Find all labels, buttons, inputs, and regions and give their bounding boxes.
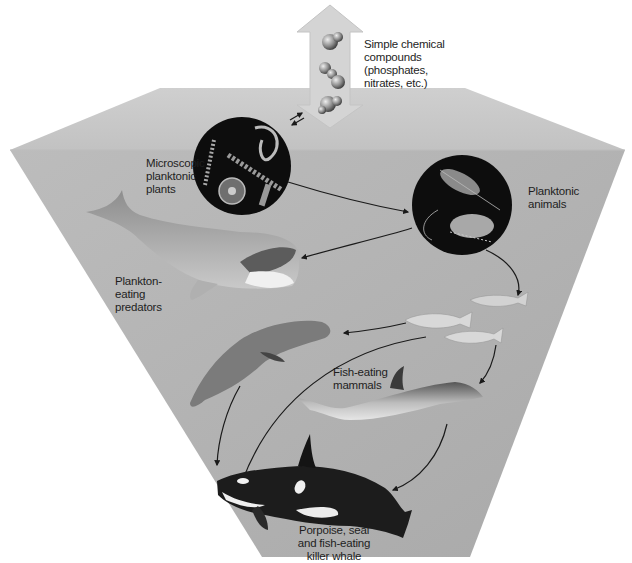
- fish-eating-mammals-label-line-1: Fish-eating: [333, 366, 388, 379]
- nutrients-label: Simple chemical compounds (phosphates, n…: [364, 38, 445, 90]
- nutrient-exchange-arrow: [297, 5, 363, 128]
- phytoplankton-label-line-1: Microscopic: [146, 157, 205, 170]
- top-predator-label-line-2: and fish-eating: [284, 537, 384, 550]
- baleen-whale-label-line-1: Plankton-: [115, 275, 162, 288]
- nutrients-label-line-4: nitrates, etc.): [364, 77, 445, 90]
- baleen-whale-label-line-2: eating: [115, 288, 162, 301]
- zooplankton-circle: [412, 155, 512, 255]
- phytoplankton-label: Microscopic planktonic plants: [146, 157, 205, 196]
- baleen-whale-label: Plankton- eating predators: [115, 275, 162, 314]
- baleen-whale-label-line-3: predators: [115, 301, 162, 314]
- phytoplankton-circle: [193, 117, 291, 215]
- nutrients-label-line-3: (phosphates,: [364, 64, 445, 77]
- nutrients-label-line-1: Simple chemical: [364, 38, 445, 51]
- top-predator-label-line-1: Porpoise, seal: [284, 524, 384, 537]
- fish-eating-mammals-label-line-2: mammals: [333, 379, 388, 392]
- phytoplankton-label-line-3: plants: [146, 183, 205, 196]
- phytoplankton-label-line-2: planktonic: [146, 170, 205, 183]
- zooplankton-label-line-2: animals: [528, 198, 579, 211]
- zooplankton-label-line-1: Planktonic: [528, 185, 579, 198]
- top-predator-label: Porpoise, seal and fish-eating killer wh…: [284, 524, 384, 563]
- top-predator-label-line-3: killer whale: [284, 550, 384, 563]
- fish-eating-mammals-label: Fish-eating mammals: [333, 366, 388, 392]
- zooplankton-label: Planktonic animals: [528, 185, 579, 211]
- nutrients-label-line-2: compounds: [364, 51, 445, 64]
